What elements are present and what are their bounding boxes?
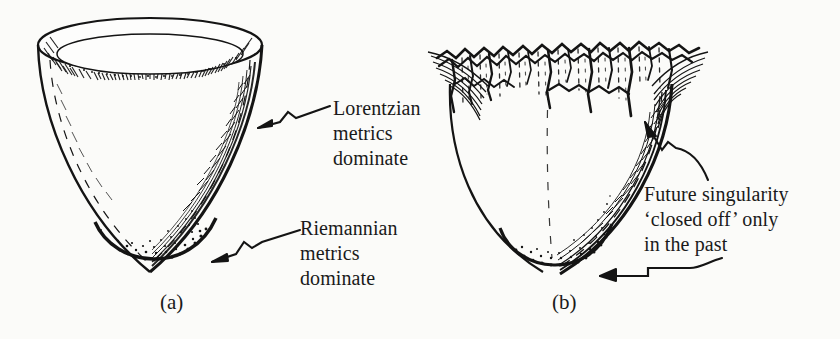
funnel-b-flare-left: [428, 52, 488, 120]
funnel-a-hatch-left: [57, 84, 112, 200]
arrow-lorentzian: [258, 106, 330, 128]
funnel-b-contour-left: [547, 92, 552, 258]
label-future-singularity: Future singularity ‘closed off’ only in …: [644, 182, 789, 257]
funnel-a-contour-right: [150, 60, 250, 264]
arrow-future-singularity-bottom: [600, 258, 722, 281]
label-lorentzian-metrics-dominate: Lorentzian metrics dominate: [333, 96, 421, 171]
panel-caption-a: (a): [160, 290, 183, 315]
funnel-a: [38, 18, 262, 272]
funnel-a-wall-right: [150, 45, 262, 272]
arrow-riemannian: [212, 230, 300, 262]
funnel-a-wall-left: [38, 45, 150, 272]
panel-caption-b: (b): [552, 290, 577, 315]
funnel-b-stipple-bottom: [515, 195, 612, 266]
funnel-b-flare-right: [652, 52, 708, 128]
label-riemannian-metrics-dominate: Riemannian metrics dominate: [300, 216, 398, 291]
funnel-b-wall-left: [450, 84, 543, 272]
figure-container: Lorentzian metrics dominate Riemannian m…: [0, 0, 840, 339]
